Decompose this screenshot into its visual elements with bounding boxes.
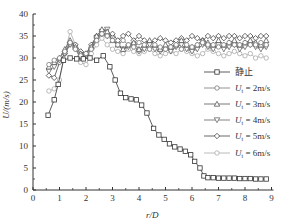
y-tick-label: 30 <box>19 53 29 63</box>
y-tick-label: 25 <box>19 75 29 85</box>
x-tick-label: 4 <box>137 193 142 203</box>
x-tick-label: 7 <box>216 193 221 203</box>
legend: 静止Ut = 2m/sUt = 3m/sUt = 4m/sUt = 5m/sUt… <box>204 66 271 159</box>
x-tick-label: 0 <box>31 193 36 203</box>
x-tick-label: 5 <box>163 193 168 203</box>
y-tick-label: 15 <box>19 119 29 129</box>
chart-container: 05101520253035400123456789r/DU/(m/s)静止Ut… <box>0 0 281 224</box>
legend-item-label: Ut = 6m/s <box>235 148 271 159</box>
legend-item-label: Ut = 5m/s <box>235 131 271 142</box>
line-chart: 05101520253035400123456789r/DU/(m/s)静止Ut… <box>0 0 281 224</box>
legend-item-label: Ut = 3m/s <box>235 99 271 110</box>
x-tick-label: 3 <box>110 193 115 203</box>
x-tick-label: 2 <box>84 193 89 203</box>
x-tick-label: 9 <box>269 193 274 203</box>
y-tick-label: 40 <box>19 9 29 19</box>
y-tick-label: 0 <box>24 185 29 195</box>
legend-item-label: Ut = 2m/s <box>235 83 271 94</box>
x-tick-label: 8 <box>243 193 248 203</box>
x-axis-label: r/D <box>146 210 159 220</box>
y-tick-label: 35 <box>19 31 29 41</box>
legend-item-label: Ut = 4m/s <box>235 115 271 126</box>
y-tick-label: 5 <box>24 163 29 173</box>
y-axis-label: U/(m/s) <box>1 91 11 119</box>
legend-item-label: 静止 <box>235 66 253 77</box>
y-tick-label: 20 <box>19 97 29 107</box>
y-tick-label: 10 <box>19 141 29 151</box>
x-tick-label: 1 <box>57 193 62 203</box>
x-tick-label: 6 <box>190 193 195 203</box>
